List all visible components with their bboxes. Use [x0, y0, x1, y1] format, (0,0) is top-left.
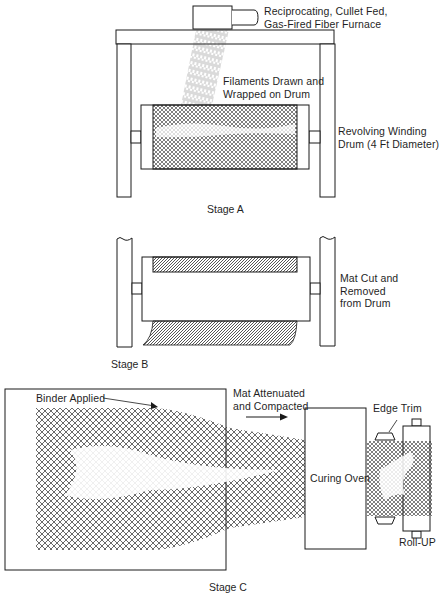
stage-c-label: Stage C — [209, 581, 247, 593]
furnace-nozzle — [232, 10, 258, 25]
hanging-mat — [143, 321, 297, 345]
label-drum: Revolving Winding Drum (4 Ft Diameter) — [338, 125, 439, 150]
rollup-spindle-top — [412, 419, 421, 426]
axle-right — [309, 131, 320, 143]
stage-b-label: Stage B — [111, 358, 148, 370]
post-left — [117, 238, 132, 348]
label-filaments-line1: Filaments Drawn and — [223, 75, 324, 88]
frame-left-leg — [117, 44, 131, 197]
label-attenuated: Mat Attenuated and Compacted — [233, 387, 308, 412]
axle-left — [131, 131, 141, 143]
label-mat-line1: Mat Cut and — [340, 272, 398, 285]
label-attenuated-line1: Mat Attenuated — [233, 387, 308, 400]
label-attenuated-line2: and Compacted — [233, 400, 308, 413]
label-filaments-line2: Wrapped on Drum — [223, 88, 324, 101]
edge-trim-top — [375, 433, 395, 440]
label-drum-line1: Revolving Winding — [338, 125, 439, 138]
post-right — [320, 237, 335, 347]
stage-a — [116, 6, 335, 197]
frame-right-leg — [320, 44, 335, 197]
label-filaments: Filaments Drawn and Wrapped on Drum — [223, 75, 324, 100]
label-rollup: Roll-UP — [399, 536, 436, 549]
edge-trim-leader — [389, 420, 397, 432]
axle-right-b — [310, 283, 320, 294]
label-furnace: Reciprocating, Cullet Fed, Gas-Fired Fib… — [264, 5, 387, 30]
label-binder: Binder Applied — [36, 392, 105, 405]
direction-arrowhead — [280, 414, 288, 421]
furnace-body — [193, 6, 232, 29]
label-edge-trim: Edge Trim — [373, 402, 422, 415]
label-furnace-line2: Gas-Fired Fiber Furnace — [264, 18, 387, 31]
axle-left-b — [132, 283, 142, 294]
cut-mat-top — [153, 257, 297, 272]
label-mat-line2: Removed — [340, 285, 398, 298]
label-furnace-line1: Reciprocating, Cullet Fed, — [264, 5, 387, 18]
stage-b — [117, 237, 335, 348]
label-mat-line3: from Drum — [340, 297, 398, 310]
label-curing-oven: Curing Oven — [310, 472, 370, 485]
label-drum-line2: Drum (4 Ft Diameter) — [338, 138, 439, 151]
stage-a-label: Stage A — [207, 203, 244, 215]
edge-trim-bottom — [375, 517, 395, 524]
label-mat-cut: Mat Cut and Removed from Drum — [340, 272, 398, 310]
